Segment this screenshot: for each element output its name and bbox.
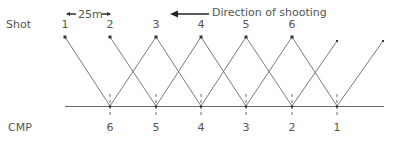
cmp-number-2: 2 [289,121,296,134]
shot-number-4: 4 [198,18,205,31]
ray-paths [65,37,383,106]
spacing-label: 25m [78,8,103,21]
spacing-left-arrowhead-icon [66,12,70,16]
cmp-number-4: 4 [198,121,205,134]
shot-number-6: 6 [289,18,296,31]
cmp-shooting-diagram: Shot CMP 25m Direction of shooting 1 2 3… [0,0,401,144]
receiver-marker-a [336,40,338,42]
spacing-right-arrowhead-icon [107,12,111,16]
shot-number-2: 2 [107,18,114,31]
shot-row-label: Shot [6,18,32,31]
cmp-number-3: 3 [243,121,250,134]
shot-marker-2 [109,36,112,39]
shot-marker-3 [155,36,158,39]
shot-number-1: 1 [62,18,69,31]
shot-number-3: 3 [153,18,160,31]
shot-number-5: 5 [243,18,250,31]
spacing-indicator: 25m [66,8,111,21]
shot-marker-1 [64,36,67,39]
cmp-number-1: 1 [334,121,341,134]
shot-marker-4 [200,36,203,39]
shot-marker-5 [245,36,248,39]
shot-marker-6 [291,36,294,39]
cmp-row-label: CMP [8,121,32,134]
cmp-number-6: 6 [107,121,114,134]
direction-label: Direction of shooting [212,6,327,19]
receiver-marker-b [382,40,384,42]
cmp-number-5: 5 [153,121,160,134]
direction-arrowhead-icon [170,11,178,18]
